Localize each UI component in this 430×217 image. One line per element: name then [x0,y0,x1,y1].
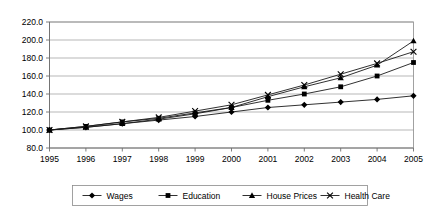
x-tick-label: 1999 [186,154,205,164]
series-line [50,41,414,130]
y-tick-label: 180.0 [22,53,44,63]
x-tick-label: 2000 [222,154,241,164]
x-tick-label: 1996 [76,154,95,164]
data-point-marker [265,104,271,110]
plot-area-border [50,22,414,148]
legend-label: Education [183,191,221,201]
series-wages [46,93,416,133]
x-tick-label: 2004 [368,154,387,164]
x-tick-label: 1998 [149,154,168,164]
x-tick-label: 1995 [40,154,59,164]
x-tick-label: 2003 [331,154,350,164]
data-point-marker [410,38,416,44]
data-point-marker [374,96,380,102]
y-tick-labels: 80.0100.0120.0140.0160.0180.0200.0220.0 [22,17,44,153]
series-line [50,52,414,130]
chart-legend: WagesEducationHouse PricesHealth Care [73,186,391,206]
data-point-marker [301,102,307,108]
data-point-marker [410,93,416,99]
legend-label: House Prices [267,191,318,201]
plot-frame-group [50,22,414,148]
data-series-group [46,38,416,133]
x-axis [50,148,414,152]
x-tick-labels: 1995199619971998199920002001200220032004… [40,154,423,164]
legend-label: Wages [107,191,133,201]
data-point-marker [375,74,380,79]
series-line [50,63,414,131]
y-tick-label: 220.0 [22,17,44,27]
data-point-marker [338,99,344,105]
data-point-marker [338,84,343,89]
chart-canvas: 80.0100.0120.0140.0160.0180.0200.0220.0 … [0,0,430,217]
x-tick-label: 2001 [258,154,277,164]
line-chart: 80.0100.0120.0140.0160.0180.0200.0220.0 … [0,0,430,217]
y-tick-label: 80.0 [26,143,43,153]
series-house-prices [46,38,416,133]
series-health-care [47,49,417,133]
y-tick-label: 140.0 [22,89,44,99]
y-tick-label: 200.0 [22,35,44,45]
x-tick-label: 2005 [404,154,423,164]
y-tick-label: 160.0 [22,71,44,81]
x-tick-label: 2002 [295,154,314,164]
y-tick-label: 100.0 [22,125,44,135]
legend-marker-square [166,193,171,198]
data-point-marker [411,60,416,65]
data-point-marker [302,92,307,97]
y-tick-label: 120.0 [22,107,44,117]
x-tick-label: 1997 [113,154,132,164]
legend-label: Health Care [345,191,391,201]
